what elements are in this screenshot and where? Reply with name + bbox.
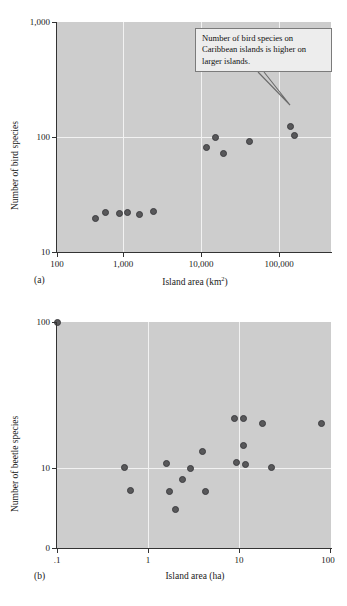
chart-panel-a: 1,000 100 10 100 1,000 10,000 100,000 Nu… [0,0,347,300]
callout-leader-b [0,300,347,606]
callout-a: Number of bird species on Caribbean isla… [195,28,332,72]
chart-panel-b: 100 10 0 .1 1 10 100 Number of beetle sp… [0,300,347,606]
